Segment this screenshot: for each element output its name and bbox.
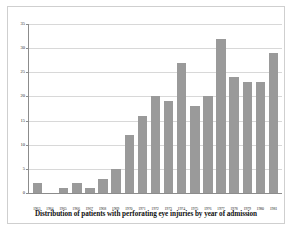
bar-slot <box>123 24 136 193</box>
bar <box>190 106 199 193</box>
y-axis-tick-label: 0 <box>23 191 25 196</box>
bar <box>125 135 134 193</box>
figure-frame: 05101520253035 1963196419651966196719681… <box>7 6 285 224</box>
bar <box>269 53 278 193</box>
y-axis-tick-label: 25 <box>20 70 25 75</box>
bar <box>33 183 42 193</box>
bar <box>164 101 173 193</box>
y-axis-tick-label: 30 <box>20 46 25 51</box>
y-axis-tick-label: 5 <box>23 167 25 172</box>
bar-slot <box>188 24 201 193</box>
bar-slot <box>149 24 162 193</box>
bar <box>256 82 265 193</box>
bar-slot <box>162 24 175 193</box>
bar-series <box>29 24 282 193</box>
bar-slot <box>83 24 96 193</box>
bar <box>59 188 68 193</box>
bar <box>111 169 120 193</box>
bar <box>243 82 252 193</box>
bar-slot <box>31 24 44 193</box>
y-axis-tick-label: 20 <box>20 94 25 99</box>
y-tick-mark <box>26 193 29 194</box>
chart-caption: Distribution of patients with perforatin… <box>8 210 284 218</box>
y-axis-tick-label: 15 <box>20 118 25 123</box>
bar <box>177 63 186 193</box>
bar-slot <box>254 24 267 193</box>
bar <box>203 96 212 193</box>
bar-slot <box>201 24 214 193</box>
bar <box>98 179 107 193</box>
bar-slot <box>44 24 57 193</box>
y-axis-tick-label: 10 <box>20 142 25 147</box>
bar-slot <box>110 24 123 193</box>
y-axis-tick-label: 35 <box>20 22 25 27</box>
bar-slot <box>215 24 228 193</box>
bar-slot <box>136 24 149 193</box>
bar-slot <box>241 24 254 193</box>
bar-slot <box>57 24 70 193</box>
bar-slot <box>175 24 188 193</box>
bar-slot <box>70 24 83 193</box>
plot-area: 05101520253035 <box>28 24 282 194</box>
bar-slot <box>97 24 110 193</box>
bar <box>85 188 94 193</box>
bar <box>72 183 81 193</box>
bar <box>216 39 225 194</box>
bar <box>151 96 160 193</box>
bar <box>138 116 147 193</box>
bar-slot <box>267 24 280 193</box>
bar-slot <box>228 24 241 193</box>
bar <box>229 77 238 193</box>
chart-figure: 05101520253035 1963196419651966196719681… <box>0 0 292 230</box>
